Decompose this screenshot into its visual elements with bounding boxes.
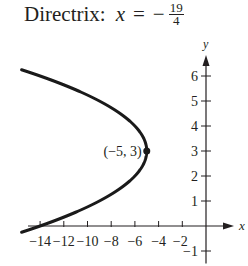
y-axis-arrow-icon xyxy=(203,55,210,66)
y-axis-label: y xyxy=(202,37,209,51)
x-tick-label: −6 xyxy=(127,234,142,249)
x-tick-label: −12 xyxy=(53,234,75,249)
x-tick-label: −10 xyxy=(77,234,99,249)
vertex-label: (−5, 3) xyxy=(104,144,143,160)
parabola-plot: xy−14−12−10−8−6−4−2−1123456(−5, 3) xyxy=(0,0,248,266)
x-tick-label: −14 xyxy=(29,234,51,249)
y-tick-label: −1 xyxy=(183,244,198,259)
x-tick-label: −4 xyxy=(151,234,166,249)
x-axis-arrow-icon xyxy=(223,223,234,230)
x-tick-label: −8 xyxy=(104,234,119,249)
vertex-point xyxy=(143,148,150,155)
x-axis-label: x xyxy=(238,218,245,233)
y-tick-label: 2 xyxy=(191,169,198,184)
y-tick-label: 1 xyxy=(191,194,198,209)
y-tick-label: 6 xyxy=(191,69,198,84)
y-tick-label: 5 xyxy=(191,94,198,109)
y-tick-label: 4 xyxy=(191,119,198,134)
y-tick-label: 3 xyxy=(191,144,198,159)
